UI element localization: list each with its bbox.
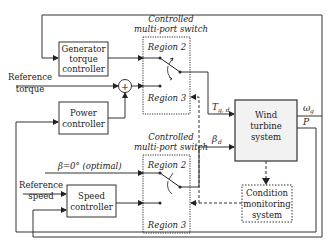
svg-text:Reference: Reference: [19, 180, 63, 190]
svg-text:controller: controller: [62, 64, 105, 74]
beta-optimal-label: β=0° (optimal): [57, 161, 122, 171]
power-label: P: [302, 117, 310, 127]
omega-g-label: ω g: [303, 103, 314, 115]
svg-text:g, d: g, d: [218, 106, 230, 114]
svg-text:controller: controller: [62, 119, 105, 129]
switch1-arrow-icon: [190, 94, 196, 100]
svg-text:Region 3: Region 3: [147, 220, 186, 230]
svg-text:Reference: Reference: [8, 72, 52, 82]
svg-text:Controlled: Controlled: [148, 132, 194, 142]
power-controller-block: Power controller: [59, 102, 108, 134]
control-diagram: Generator torque controller Power contro…: [0, 0, 336, 250]
svg-text:β: β: [211, 134, 217, 144]
svg-text:g: g: [310, 107, 314, 115]
bottom-switch-title: Controlled multi-port switch: [134, 132, 208, 152]
svg-text:Region 2: Region 2: [147, 42, 186, 52]
svg-text:controller: controller: [70, 202, 113, 212]
wind-turbine-system-block: Wind turbine system: [235, 100, 297, 161]
beta-d-label: β d: [211, 134, 222, 145]
speed-controller-block: Speed controller: [67, 185, 116, 217]
svg-text:Region 2: Region 2: [147, 160, 186, 170]
svg-text:speed: speed: [28, 191, 54, 201]
svg-text:d: d: [218, 138, 222, 145]
cms-arrow-icon: [262, 178, 270, 185]
switch3-arrow-icon: [190, 200, 196, 206]
condition-monitoring-system-block: Condition monitoring system: [242, 185, 292, 222]
svg-text:torque: torque: [69, 54, 98, 64]
svg-text:torque: torque: [16, 84, 45, 94]
svg-text:Condition: Condition: [246, 188, 289, 198]
top-switch-title: Controlled multi-port switch: [134, 14, 208, 34]
svg-text:system: system: [251, 132, 281, 142]
bottom-multi-port-switch: Region 2 Region 3: [143, 155, 190, 233]
generator-torque-controller-block: Generator torque controller: [59, 42, 108, 76]
svg-text:Power: Power: [70, 108, 98, 118]
svg-text:turbine: turbine: [250, 121, 282, 131]
svg-text:Wind: Wind: [255, 110, 278, 120]
reference-torque-label: Reference torque: [8, 72, 52, 94]
summing-junction: +: [119, 80, 132, 93]
svg-text:+: +: [121, 81, 129, 92]
reference-speed-label: Reference speed: [19, 180, 63, 201]
svg-text:system: system: [252, 210, 282, 220]
svg-text:Generator: Generator: [61, 44, 106, 54]
svg-text:multi-port switch: multi-port switch: [134, 142, 208, 152]
svg-text:Region 3: Region 3: [147, 93, 186, 103]
svg-text:monitoring: monitoring: [243, 199, 291, 209]
top-multi-port-switch: Region 2 Region 3: [143, 37, 190, 114]
svg-text:multi-port switch: multi-port switch: [134, 24, 208, 34]
svg-text:Speed: Speed: [78, 191, 105, 201]
tg-d-label: T g, d: [212, 102, 230, 114]
